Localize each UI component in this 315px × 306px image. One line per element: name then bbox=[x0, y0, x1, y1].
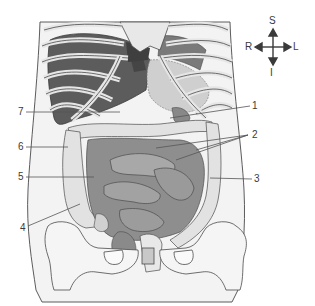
abdominal-anatomy-diagram bbox=[0, 0, 315, 306]
label-1: 1 bbox=[252, 101, 258, 111]
label-5: 5 bbox=[18, 172, 24, 182]
arrow-up-icon bbox=[269, 29, 277, 36]
compass-inferior: I bbox=[270, 68, 273, 78]
compass-right: R bbox=[245, 42, 252, 52]
label-6: 6 bbox=[18, 142, 24, 152]
label-7: 7 bbox=[18, 107, 24, 117]
orientation-compass bbox=[255, 29, 291, 65]
compass-left: L bbox=[293, 42, 299, 52]
arrow-down-icon bbox=[269, 58, 277, 65]
label-4: 4 bbox=[20, 223, 26, 233]
arrow-right-icon bbox=[284, 43, 291, 51]
compass-superior: S bbox=[269, 16, 276, 26]
arrow-left-icon bbox=[255, 43, 262, 51]
label-2: 2 bbox=[252, 130, 258, 140]
label-3: 3 bbox=[254, 174, 260, 184]
